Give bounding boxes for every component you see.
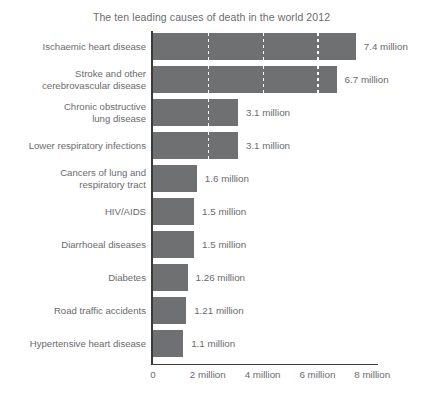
x-axis-line	[151, 364, 378, 365]
category-label: Ischaemic heart disease	[0, 33, 146, 60]
x-axis-tick-label: 4 million	[245, 369, 281, 380]
bar	[153, 264, 188, 291]
category-label: Cancers of lung andrespiratory tract	[0, 165, 146, 192]
bar	[153, 231, 194, 258]
bar-gridline	[263, 66, 265, 93]
category-label: Lower respiratory infections	[0, 132, 146, 159]
bar-value-label: 1.5 million	[202, 198, 246, 225]
bar	[153, 99, 238, 126]
x-axis-tick-label: 2 million	[190, 369, 226, 380]
bar-gridline	[317, 66, 319, 93]
category-label: Chronic obstructivelung disease	[0, 99, 146, 126]
bar-value-label: 3.1 million	[246, 132, 290, 159]
category-label: Stroke and othercerebrovascular disease	[0, 66, 146, 93]
bar-value-label: 1.21 million	[194, 297, 244, 324]
bar-value-label: 1.5 million	[202, 231, 246, 258]
x-axis-tick-label: 6 million	[299, 369, 335, 380]
x-axis-tick-label: 8 million	[354, 369, 390, 380]
category-label: Hypertensive heart disease	[0, 330, 146, 357]
bar-row: Ischaemic heart disease7.4 million	[0, 33, 423, 60]
bar-row: HIV/AIDS1.5 million	[0, 198, 423, 225]
bar	[153, 66, 337, 93]
bar-gridline	[208, 132, 210, 159]
bar	[153, 297, 186, 324]
bar-row: Diabetes1.26 million	[0, 264, 423, 291]
bar-value-label: 1.6 million	[205, 165, 249, 192]
category-label: Diabetes	[0, 264, 146, 291]
bar-row: Lower respiratory infections3.1 million	[0, 132, 423, 159]
bar	[153, 33, 356, 60]
bar-value-label: 3.1 million	[246, 99, 290, 126]
bar-gridline	[317, 33, 319, 60]
bar	[153, 165, 197, 192]
bar-row: Chronic obstructivelung disease3.1 milli…	[0, 99, 423, 126]
bar-row: Hypertensive heart disease1.1 million	[0, 330, 423, 357]
x-axis-tick-label: 0	[150, 369, 155, 380]
bar-row: Stroke and othercerebrovascular disease6…	[0, 66, 423, 93]
bar-gridline	[208, 33, 210, 60]
plot-area: Ischaemic heart disease7.4 millionStroke…	[0, 0, 423, 403]
bar	[153, 132, 238, 159]
chart-container: The ten leading causes of death in the w…	[0, 0, 423, 403]
bar-gridline	[208, 66, 210, 93]
bar-value-label: 7.4 million	[364, 33, 408, 60]
bar-gridline	[208, 99, 210, 126]
bar-gridline	[263, 33, 265, 60]
category-label: HIV/AIDS	[0, 198, 146, 225]
category-label: Road traffic accidents	[0, 297, 146, 324]
bar-row: Road traffic accidents1.21 million	[0, 297, 423, 324]
bar-value-label: 1.1 million	[191, 330, 235, 357]
bar-value-label: 1.26 million	[196, 264, 246, 291]
bar	[153, 198, 194, 225]
bar	[153, 330, 183, 357]
category-label: Diarrhoeal diseases	[0, 231, 146, 258]
bar-row: Diarrhoeal diseases1.5 million	[0, 231, 423, 258]
bar-row: Cancers of lung andrespiratory tract1.6 …	[0, 165, 423, 192]
bar-value-label: 6.7 million	[345, 66, 389, 93]
